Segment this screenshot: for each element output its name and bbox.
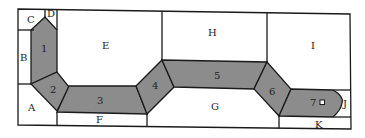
segment-label-2: 2 [50,84,56,95]
region-label-b: B [20,52,27,63]
segment-label-5: 5 [214,70,220,81]
marker-square-icon [320,100,325,105]
segment-label-7: 7 [310,97,316,108]
region-label-e: E [102,40,109,51]
segment-label-6: 6 [269,86,275,97]
segment-label-4: 4 [152,80,158,91]
region-label-c: C [27,14,35,25]
region-label-i: I [311,40,315,51]
segment-label-3: 3 [97,95,103,106]
region-label-d: D [47,8,55,19]
region-label-a: A [27,102,36,113]
region-label-g: G [211,101,219,112]
region-label-f: F [96,114,103,125]
region-label-h: H [208,27,217,38]
corridor-diagram: C D B A E F G H I J K 1 2 3 4 5 6 7 [0,0,365,138]
region-label-k: K [315,119,323,130]
segment-label-1: 1 [41,43,47,54]
region-label-j: J [342,98,347,109]
